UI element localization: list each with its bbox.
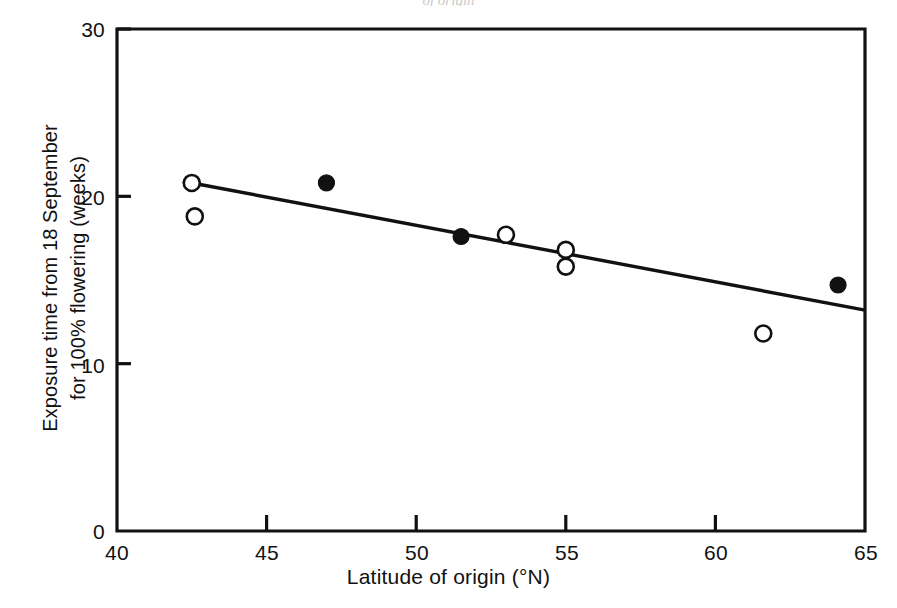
data-point-open — [558, 259, 574, 275]
data-point-open — [187, 208, 203, 224]
figure-container: of origin 30 20 10 0 40 45 50 55 60 65 L… — [0, 0, 897, 608]
data-point-open — [558, 242, 574, 258]
y-axis-title: Exposure time from 18 September for 100%… — [36, 78, 92, 478]
regression-line — [183, 181, 865, 310]
data-point-filled — [830, 277, 846, 293]
xtick-label-65: 65 — [841, 541, 891, 565]
y-axis-title-line-1: Exposure time from 18 September — [36, 78, 64, 478]
xtick-label-55: 55 — [542, 541, 592, 565]
plot-area — [0, 0, 897, 608]
data-point-open — [498, 227, 514, 243]
x-axis-title: Latitude of origin (°N) — [0, 565, 897, 589]
data-point-open — [184, 175, 200, 191]
axis-frame — [117, 29, 865, 531]
xtick-label-45: 45 — [242, 541, 292, 565]
ytick-label-30: 30 — [60, 18, 105, 42]
y-axis-title-line-2: for 100% flowering (weeks) — [64, 78, 92, 478]
xtick-label-50: 50 — [392, 541, 442, 565]
xtick-label-40: 40 — [92, 541, 142, 565]
data-point-filled — [453, 228, 469, 244]
data-point-open — [755, 326, 771, 342]
xtick-label-60: 60 — [691, 541, 741, 565]
data-point-filled — [318, 175, 334, 191]
